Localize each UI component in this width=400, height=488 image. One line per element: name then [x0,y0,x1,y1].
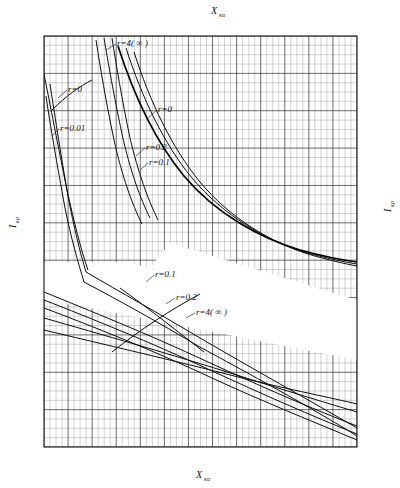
top-axis-title-sub: κα [219,12,226,18]
right-axis-title-main: I [382,208,393,213]
curve-r0-main [118,46,357,262]
label-upper-left-r001: r=0.01 [60,123,85,133]
left-axis-title-main: I [7,224,18,229]
right-axis-title: I κρ [382,201,395,213]
label-lower-r02: r=0.2 [176,292,197,302]
nomograph-chart: X κα X κα I κρ I κρ r=4( ∞ ) r=0 r=0.01 … [0,0,400,488]
right-axis-title-sub: κρ [389,201,395,207]
label-upper-right-r02: r=0.2 [146,142,167,152]
curve-r4-top [104,38,150,218]
label-upper-right-r01: r=0.1 [149,157,170,167]
curve-r01-main [126,48,357,264]
curve-extra-upperleft [44,74,88,270]
bottom-axis-title-main: X [195,469,203,480]
bottom-axis-title: X κα [195,469,211,482]
label-top-r4: r=4( ∞ ) [117,38,148,48]
curve-top-steep-c [96,40,142,224]
label-lower-r01: r=0.1 [155,269,176,279]
top-axis-title-main: X [210,5,218,16]
top-axis-title: X κα [210,5,226,18]
leader-upper-right-r01 [140,163,148,170]
leader-top-r4 [106,44,116,50]
leader-upper-left-r0 [58,90,67,98]
left-axis-title-sub: κρ [14,217,20,223]
grid-group [44,36,357,447]
left-axis-title: I κρ [7,217,20,229]
bottom-axis-title-sub: κα [204,476,211,482]
chart-canvas: X κα X κα I κρ I κρ r=4( ∞ ) r=0 r=0.01 … [0,0,400,488]
label-upper-right-r0: r=0 [158,104,173,114]
curve-r4-top-b [112,38,158,220]
label-upper-left-r0: r=0 [68,84,83,94]
label-lower-r4: r=4( ∞ ) [196,307,227,317]
